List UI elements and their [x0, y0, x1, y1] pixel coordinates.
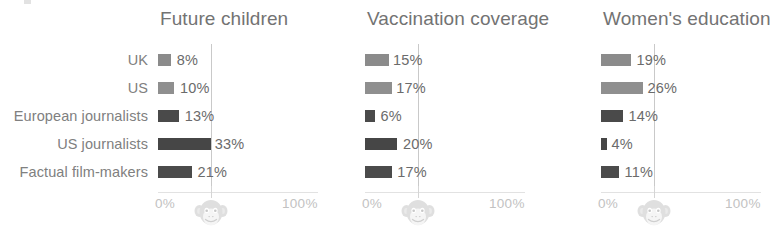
panel-title: Vaccination coverage — [367, 8, 549, 30]
bar-row: 33% — [158, 130, 318, 158]
bar — [158, 54, 171, 66]
axis-line — [158, 192, 318, 193]
bar-value-label: 11% — [625, 158, 654, 186]
bar-value-label: 26% — [648, 74, 678, 102]
category-label: European journalists — [14, 102, 148, 130]
plot-area: 8% 10% 13% 33% 21% — [158, 46, 318, 186]
panel-womens-education: Women's education 19% 26% 14% 4% 11% — [601, 0, 770, 245]
monkey-icon — [637, 198, 671, 228]
bar-value-label: 14% — [628, 102, 658, 130]
bar-value-label: 17% — [397, 158, 427, 186]
x-axis: 0% 100% — [365, 186, 525, 245]
bar-row: 14% — [601, 102, 761, 130]
bar-row: 6% — [365, 102, 525, 130]
bar-row: 15% — [365, 46, 525, 74]
panel-future-children: Future children 8% 10% 13% 33% 21% — [158, 0, 358, 245]
bar-row: 13% — [158, 102, 318, 130]
bar — [601, 82, 643, 94]
bar-value-label: 15% — [393, 46, 423, 74]
bar-row: 21% — [158, 158, 318, 186]
axis-tick-label-end: 100% — [489, 196, 525, 211]
bar-row: 10% — [158, 74, 318, 102]
bar-row: 17% — [365, 158, 525, 186]
bar-value-label: 10% — [180, 74, 210, 102]
panel-title: Future children — [160, 8, 288, 30]
bar — [365, 138, 397, 150]
bar — [158, 166, 192, 178]
axis-tick-label-start: 0% — [155, 196, 175, 211]
bar — [601, 54, 631, 66]
axis-tick-label-end: 100% — [725, 196, 761, 211]
x-axis: 0% 100% — [601, 186, 761, 245]
axis-line — [365, 192, 525, 193]
category-label: US journalists — [57, 130, 148, 158]
bar — [158, 138, 211, 150]
bar — [365, 110, 375, 122]
category-label: Factual film-makers — [20, 158, 148, 186]
bar-value-label: 17% — [396, 74, 426, 102]
bar-row: 11% — [601, 158, 761, 186]
bar — [365, 82, 392, 94]
monkey-icon — [401, 198, 435, 228]
bar — [601, 110, 623, 122]
bar-row: 26% — [601, 74, 761, 102]
x-axis: 0% 100% — [158, 186, 318, 245]
axis-line — [601, 192, 761, 193]
bar-value-label: 13% — [185, 102, 215, 130]
axis-tick-label-end: 100% — [282, 196, 318, 211]
plot-area: 15% 17% 6% 20% 17% — [365, 46, 525, 186]
axis-tick-chimp — [418, 186, 419, 198]
axis-tick-label-start: 0% — [598, 196, 618, 211]
bar-row: 19% — [601, 46, 761, 74]
bar-row: 4% — [601, 130, 761, 158]
bar — [365, 54, 389, 66]
bar-value-label: 33% — [215, 130, 245, 158]
bar-value-label: 8% — [177, 46, 198, 74]
category-label: UK — [128, 46, 148, 74]
plot-area: 19% 26% 14% 4% 11% — [601, 46, 761, 186]
bar-value-label: 4% — [611, 130, 632, 158]
category-label-column: UK US European journalists US journalist… — [0, 46, 152, 186]
scan-artifact — [24, 0, 31, 4]
bar-row: 17% — [365, 74, 525, 102]
bar-value-label: 19% — [636, 46, 666, 74]
bar-row: 20% — [365, 130, 525, 158]
axis-tick-chimp — [211, 186, 212, 198]
panel-title: Women's education — [603, 8, 770, 30]
bar — [365, 166, 392, 178]
bar-value-label: 6% — [381, 102, 402, 130]
bar-value-label: 20% — [403, 130, 433, 158]
monkey-icon — [194, 198, 228, 228]
bar — [158, 82, 174, 94]
multi-panel-bar-chart: UK US European journalists US journalist… — [0, 0, 770, 245]
panel-vaccination-coverage: Vaccination coverage 15% 17% 6% 20% 17% — [365, 0, 565, 245]
bar — [158, 110, 179, 122]
category-label: US — [128, 74, 148, 102]
bar — [601, 138, 607, 150]
bar-row: 8% — [158, 46, 318, 74]
axis-tick-label-start: 0% — [362, 196, 382, 211]
bar — [601, 166, 619, 178]
axis-tick-chimp — [654, 186, 655, 198]
bar-value-label: 21% — [198, 158, 228, 186]
